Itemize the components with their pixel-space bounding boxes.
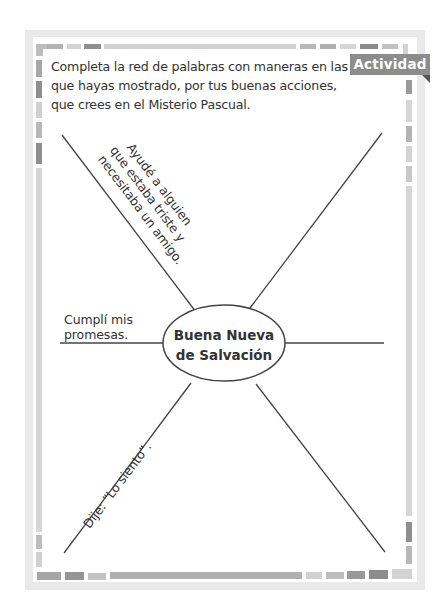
- center-label-line1: Buena Nueva: [163, 325, 285, 345]
- answer-right[interactable]: [300, 330, 301, 331]
- answer-upper-right[interactable]: [300, 200, 301, 201]
- spoke-lower-right: [256, 384, 385, 552]
- word-web-diagram: [0, 0, 448, 614]
- answer-lower-right[interactable]: [300, 470, 301, 471]
- answer-left: Cumplí mis promesas.: [64, 312, 133, 342]
- answer-left-line2: promesas.: [64, 327, 133, 342]
- center-label: Buena Nueva de Salvación: [163, 325, 285, 365]
- center-label-line2: de Salvación: [163, 345, 285, 365]
- answer-left-line1: Cumplí mis: [64, 312, 133, 327]
- spoke-upper-right: [247, 133, 382, 312]
